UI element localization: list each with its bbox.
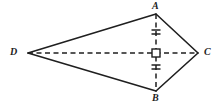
vertex-label-a: A: [152, 1, 159, 11]
vertex-label-d: D: [10, 47, 17, 57]
vertex-label-b: B: [152, 93, 159, 103]
right-angle-marker: [152, 49, 160, 57]
right-angle-square: [152, 49, 160, 57]
geometry-figure: A B C D: [0, 0, 218, 107]
kite-diagram-canvas: [0, 0, 218, 107]
vertex-label-c: C: [204, 47, 211, 57]
